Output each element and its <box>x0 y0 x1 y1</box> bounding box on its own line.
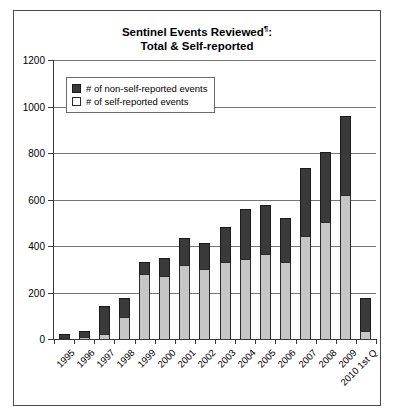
legend-label-self-reported: # of self-reported events <box>86 96 188 107</box>
y-axis-tick-label: 1200 <box>23 55 45 66</box>
bar-stack <box>79 331 90 339</box>
bar-segment-non-self-reported <box>260 205 271 254</box>
bar-stack <box>260 205 271 339</box>
x-axis-tick <box>215 339 216 344</box>
bar-segment-self-reported <box>280 262 291 339</box>
y-axis-tick-label: 1000 <box>23 101 45 112</box>
bar-column <box>360 60 371 339</box>
bar-segment-self-reported <box>360 331 371 339</box>
bar-segment-non-self-reported <box>320 152 331 222</box>
x-axis-tick <box>296 339 297 344</box>
bar-segment-non-self-reported <box>220 227 231 262</box>
bar-segment-non-self-reported <box>99 306 110 334</box>
legend-label-non-self-reported: # of non-self-reported events <box>86 83 207 94</box>
bar-segment-self-reported <box>240 259 251 339</box>
x-axis-tick <box>114 339 115 344</box>
dark-swatch-icon <box>72 84 81 93</box>
bar-segment-self-reported <box>300 236 311 339</box>
chart-legend: # of non-self-reported events # of self-… <box>66 77 215 113</box>
bar-segment-self-reported <box>320 222 331 339</box>
x-axis-tick <box>235 339 236 344</box>
x-axis-tick <box>155 339 156 344</box>
bar-column <box>300 60 311 339</box>
x-axis-tick <box>336 339 337 344</box>
bar-stack <box>199 243 210 339</box>
bar-segment-self-reported <box>340 195 351 339</box>
bar-stack <box>59 334 70 339</box>
bar-segment-non-self-reported <box>360 298 371 331</box>
bar-segment-self-reported <box>139 274 150 339</box>
bar-segment-non-self-reported <box>159 258 170 277</box>
x-axis-tick <box>255 339 256 344</box>
x-axis-tick <box>376 339 377 344</box>
bar-segment-self-reported <box>59 338 70 339</box>
bar-column <box>240 60 251 339</box>
x-axis-tick <box>356 339 357 344</box>
chart-title-line1: Sentinel Events Reviewed¶: <box>13 22 381 39</box>
bar-stack <box>99 306 110 339</box>
y-axis-tick-label: 200 <box>28 287 45 298</box>
y-axis-tick-label: 400 <box>28 241 45 252</box>
x-axis-tick <box>316 339 317 344</box>
bar-segment-non-self-reported <box>119 298 130 317</box>
bar-segment-non-self-reported <box>340 116 351 195</box>
bar-stack <box>240 209 251 339</box>
bar-segment-non-self-reported <box>240 209 251 259</box>
bar-column <box>280 60 291 339</box>
bar-segment-non-self-reported <box>199 243 210 270</box>
bar-segment-self-reported <box>199 269 210 339</box>
bar-stack <box>139 262 150 339</box>
light-swatch-icon <box>72 97 81 106</box>
chart-title: Sentinel Events Reviewed¶: Total & Self-… <box>13 22 381 53</box>
chart-title-line2: Total & Self-reported <box>13 39 381 53</box>
bar-stack <box>300 168 311 339</box>
bar-segment-non-self-reported <box>179 238 190 265</box>
bar-segment-self-reported <box>79 337 90 339</box>
bar-stack <box>280 218 291 339</box>
x-axis-tick <box>74 339 75 344</box>
chart-title-line1-text: Sentinel Events Reviewed <box>122 26 264 38</box>
x-axis-tick <box>195 339 196 344</box>
bar-stack <box>360 298 371 339</box>
bar-stack <box>119 298 130 339</box>
x-axis-tick <box>54 339 55 344</box>
x-axis-tick <box>135 339 136 344</box>
bar-column <box>340 60 351 339</box>
bar-column <box>320 60 331 339</box>
bar-segment-self-reported <box>159 276 170 339</box>
bar-stack <box>340 116 351 339</box>
bar-segment-self-reported <box>119 317 130 339</box>
legend-item-self-reported: # of self-reported events <box>72 95 207 108</box>
chart-title-colon: : <box>268 26 272 38</box>
bar-stack <box>320 152 331 339</box>
bar-stack <box>220 227 231 339</box>
bar-stack <box>159 258 170 339</box>
y-axis-tick-label: 0 <box>39 334 45 345</box>
legend-item-non-self-reported: # of non-self-reported events <box>72 82 207 95</box>
bar-segment-non-self-reported <box>139 262 150 274</box>
bar-column <box>220 60 231 339</box>
bar-column <box>260 60 271 339</box>
x-axis-tick <box>94 339 95 344</box>
bar-segment-self-reported <box>99 334 110 339</box>
chart-figure: Sentinel Events Reviewed¶: Total & Self-… <box>0 0 394 417</box>
y-axis-tick-label: 800 <box>28 148 45 159</box>
bar-segment-non-self-reported <box>300 168 311 235</box>
x-axis-tick <box>175 339 176 344</box>
bar-segment-self-reported <box>220 262 231 339</box>
bar-segment-non-self-reported <box>280 218 291 262</box>
bar-segment-self-reported <box>260 254 271 339</box>
bar-stack <box>179 238 190 339</box>
x-axis-tick <box>275 339 276 344</box>
y-axis-tick-label: 600 <box>28 194 45 205</box>
bar-segment-self-reported <box>179 265 190 339</box>
